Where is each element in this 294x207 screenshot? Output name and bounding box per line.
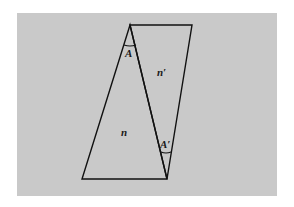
prism-diagram: A n′ n A′ xyxy=(0,0,294,207)
angle-arc-a-prime xyxy=(161,152,171,153)
label-medium-n: n xyxy=(121,126,127,138)
angle-arc-a xyxy=(124,45,136,46)
label-angle-a-prime: A′ xyxy=(159,138,170,150)
prism-n-prime xyxy=(130,25,192,179)
label-angle-a: A xyxy=(124,47,132,59)
label-medium-n-prime: n′ xyxy=(157,66,166,78)
